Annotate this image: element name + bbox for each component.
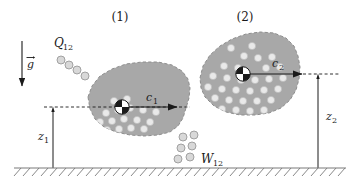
velocity-2-label: c (272, 57, 278, 70)
velocity-1-subscript: 1 (153, 97, 158, 106)
heat-label-group: Q 12 (54, 36, 73, 52)
height-2-label: z (325, 110, 332, 123)
state-1-label: (1) (112, 10, 129, 24)
work-particle-cluster (174, 131, 198, 163)
work-label-group: W 12 (201, 152, 223, 168)
height-1-subscript: 1 (44, 136, 49, 145)
velocity-1-label: c (146, 91, 152, 104)
gas-cloud-state-1 (88, 62, 190, 136)
diagram-canvas: (1) (2) g Q 12 (0, 0, 360, 191)
height-2-subscript: 2 (332, 116, 337, 125)
ground-hatching (14, 168, 346, 176)
work-subscript: 12 (213, 159, 223, 168)
heat-subscript: 12 (63, 43, 73, 52)
heat-particle-chain (57, 56, 89, 80)
gravity-label: g (27, 58, 34, 71)
height-dimension-2: z 2 (316, 74, 337, 169)
center-of-mass-1 (115, 100, 129, 114)
height-dimension-1: z 1 (37, 107, 55, 169)
center-of-mass-2 (236, 67, 250, 81)
velocity-2-subscript: 2 (279, 63, 284, 72)
height-1-label: z (37, 130, 44, 143)
state-2-label: (2) (237, 10, 254, 24)
gravity-vector: g (22, 41, 35, 86)
